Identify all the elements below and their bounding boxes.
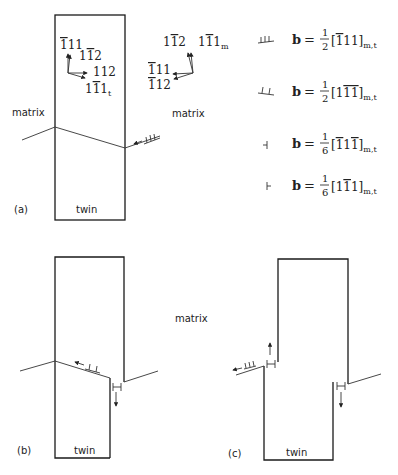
svg-text:2: 2 bbox=[322, 93, 328, 104]
twin-label-b: twin bbox=[74, 445, 95, 456]
svg-text:2: 2 bbox=[322, 41, 328, 52]
svg-text:1: 1 bbox=[322, 173, 328, 184]
svg-text:=: = bbox=[304, 84, 315, 99]
twin-label-a: twin bbox=[76, 204, 97, 215]
matrix-dir-1: 112 bbox=[163, 35, 186, 49]
twin-dir-3: 112 bbox=[93, 65, 116, 79]
panel-a: 111 112 112 111t 112 111m 111 112 matrix… bbox=[12, 15, 229, 220]
twin-diagram: 111 112 112 111t 112 111m 111 112 matrix… bbox=[0, 0, 398, 475]
svg-text:b: b bbox=[292, 136, 301, 151]
svg-text:1: 1 bbox=[322, 131, 328, 142]
twin-boundary-right bbox=[348, 374, 381, 384]
partial-dislocation-left-icon bbox=[263, 141, 267, 149]
double-dislocation-icon bbox=[258, 87, 274, 95]
matrix-dir-2: 111m bbox=[198, 35, 229, 51]
svg-text:b: b bbox=[292, 32, 301, 47]
partial-dislocation-pair-icon-upper bbox=[267, 343, 275, 368]
svg-text:b: b bbox=[292, 84, 301, 99]
twin-outline-upper bbox=[278, 259, 348, 384]
svg-text:=: = bbox=[304, 32, 315, 47]
twin-dir-2: 112 bbox=[79, 49, 102, 63]
panel-c: twin (c) bbox=[228, 259, 381, 460]
triple-dislocation-icon bbox=[258, 36, 274, 43]
matrix-direction-arrows bbox=[173, 53, 193, 79]
twin-boundary-right bbox=[124, 371, 158, 382]
svg-text:=: = bbox=[304, 136, 315, 151]
svg-text:[111]m,t: [111]m,t bbox=[331, 180, 377, 196]
twin-label-c: twin bbox=[286, 447, 307, 458]
legend-row-4: b = 1 6 [111]m,t bbox=[267, 173, 377, 198]
panel-label-a: (a) bbox=[14, 204, 28, 215]
panel-label-c: (c) bbox=[228, 448, 241, 459]
twin-outline-upper bbox=[55, 257, 124, 458]
svg-text:[111]m,t: [111]m,t bbox=[331, 34, 377, 50]
triple-dislocation-icon bbox=[134, 134, 160, 144]
legend: b = 1 2 [111]m,t b = 1 2 [111]m,t bbox=[258, 27, 377, 198]
legend-row-1: b = 1 2 [111]m,t bbox=[258, 27, 377, 52]
svg-text:b: b bbox=[292, 178, 301, 193]
matrix-label-left: matrix bbox=[12, 107, 45, 118]
svg-text:[111]m,t: [111]m,t bbox=[331, 138, 377, 154]
svg-text:[111]m,t: [111]m,t bbox=[331, 86, 377, 102]
matrix-dir-4: 112 bbox=[148, 78, 171, 92]
twin-boundary-line bbox=[22, 127, 160, 148]
svg-text:6: 6 bbox=[322, 145, 328, 156]
twin-outline-lower bbox=[264, 366, 333, 460]
svg-text:1: 1 bbox=[322, 79, 328, 90]
panel-label-b: (b) bbox=[17, 445, 31, 456]
partial-dislocation-pair-icon-lower bbox=[337, 382, 345, 407]
svg-text:1: 1 bbox=[322, 27, 328, 38]
matrix-dir-3: 111 bbox=[148, 63, 171, 77]
partial-dislocation-pair-icon bbox=[113, 383, 121, 406]
svg-text:=: = bbox=[304, 178, 315, 193]
legend-row-2: b = 1 2 [111]m,t bbox=[258, 79, 377, 104]
matrix-label-right: matrix bbox=[172, 108, 205, 119]
triple-dislocation-icon bbox=[233, 361, 256, 370]
matrix-label-center: matrix bbox=[175, 313, 208, 324]
legend-row-3: b = 1 6 [111]m,t bbox=[263, 131, 377, 156]
twin-dir-4: 111t bbox=[85, 82, 112, 98]
partial-dislocation-right-icon bbox=[267, 182, 271, 190]
svg-text:6: 6 bbox=[322, 187, 328, 198]
panel-b: twin (b) bbox=[17, 257, 158, 458]
